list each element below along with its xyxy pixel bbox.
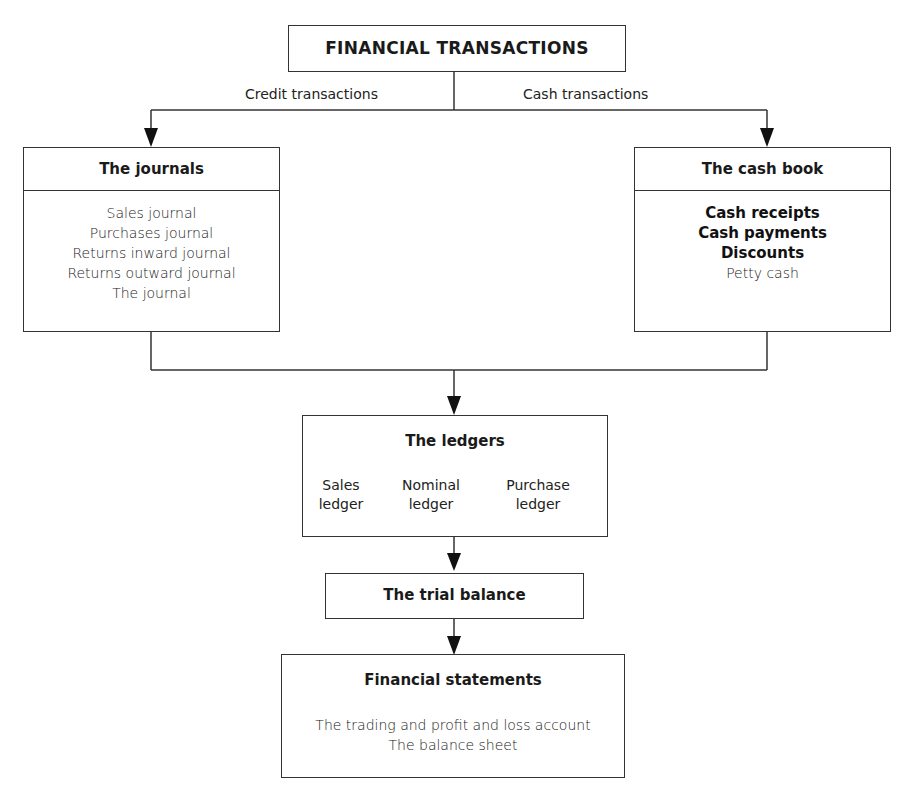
cash-book-item: Cash receipts — [635, 203, 890, 223]
cash-book-item: Discounts — [635, 243, 890, 263]
financial-statements-list: The trading and profit and loss account … — [282, 715, 624, 755]
cash-book-box: The cash book Cash receipts Cash payment… — [634, 147, 891, 332]
arrow-to-journals — [144, 128, 158, 147]
ledgers-title: The ledgers — [303, 432, 607, 450]
ledger-column-purchase: Purchase ledger — [488, 476, 588, 514]
ledger-column-line: Sales — [311, 476, 371, 495]
financial-transactions-title: FINANCIAL TRANSACTIONS — [289, 26, 625, 70]
cash-transactions-label: Cash transactions — [523, 86, 648, 102]
journals-item: Purchases journal — [24, 223, 279, 243]
arrow-to-financial-statements — [447, 636, 461, 655]
cash-book-item: Petty cash — [635, 263, 890, 283]
arrow-to-cash-book — [760, 128, 774, 147]
ledgers-box: The ledgers Sales ledger Nominal ledger … — [302, 415, 608, 537]
ledger-column-line: ledger — [311, 495, 371, 514]
ledger-column-line: Nominal — [391, 476, 471, 495]
cash-book-divider — [635, 190, 890, 191]
financial-statements-item: The trading and profit and loss account — [282, 715, 624, 735]
ledger-column-line: Purchase — [488, 476, 588, 495]
cash-book-title: The cash book — [635, 148, 890, 190]
journals-list: Sales journal Purchases journal Returns … — [24, 203, 279, 303]
journals-item: Sales journal — [24, 203, 279, 223]
ledger-column-sales: Sales ledger — [311, 476, 371, 514]
journals-item: The journal — [24, 283, 279, 303]
financial-statements-item: The balance sheet — [282, 735, 624, 755]
cash-book-list: Cash receipts Cash payments Discounts Pe… — [635, 203, 890, 283]
ledger-column-nominal: Nominal ledger — [391, 476, 471, 514]
ledger-column-line: ledger — [488, 495, 588, 514]
journals-divider — [24, 190, 279, 191]
trial-balance-title: The trial balance — [326, 574, 583, 616]
journals-item: Returns outward journal — [24, 263, 279, 283]
journals-box: The journals Sales journal Purchases jou… — [23, 147, 280, 332]
journals-title: The journals — [24, 148, 279, 190]
credit-transactions-label: Credit transactions — [245, 86, 378, 102]
arrow-to-trial-balance — [447, 553, 461, 571]
cash-book-item: Cash payments — [635, 223, 890, 243]
financial-statements-title: Financial statements — [282, 671, 624, 689]
trial-balance-box: The trial balance — [325, 573, 584, 619]
financial-transactions-box: FINANCIAL TRANSACTIONS — [288, 25, 626, 72]
financial-statements-box: Financial statements The trading and pro… — [281, 654, 625, 778]
journals-item: Returns inward journal — [24, 243, 279, 263]
arrow-to-ledgers — [447, 396, 461, 415]
ledger-column-line: ledger — [391, 495, 471, 514]
